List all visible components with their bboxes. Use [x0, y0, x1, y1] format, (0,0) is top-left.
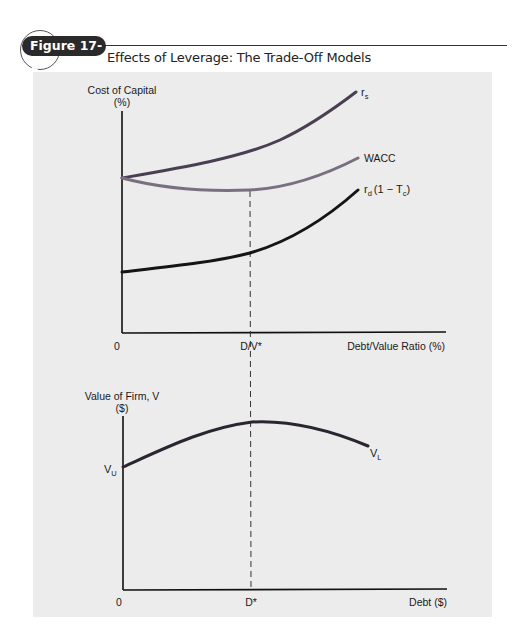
y-axis-unit: (%) [114, 96, 130, 108]
x-tick-optimum: D/V* [240, 340, 262, 352]
x-axis [123, 589, 447, 590]
vl-label: VL [370, 447, 382, 462]
x-tick-zero: 0 [116, 596, 122, 608]
rd-after-tax-curve [122, 190, 358, 272]
x-tick-zero: 0 [114, 340, 120, 352]
vu-label: VU [104, 463, 117, 478]
wacc-curve [122, 158, 358, 191]
charts-svg: Cost of Capital (%) rs WACC rd(1 − Tc) 0… [0, 0, 520, 644]
vl-curve [123, 422, 368, 467]
optimum-dashed-line [250, 191, 251, 588]
y-axis-title: Value of Firm, V [85, 390, 160, 402]
x-axis-title: Debt/Value Ratio (%) [347, 340, 445, 352]
value-of-firm-chart: Value of Firm, V ($) VL VU 0 D* Debt ($) [85, 390, 447, 608]
wacc-label: WACC [364, 152, 396, 164]
x-tick-optimum: D* [245, 596, 257, 608]
x-axis [122, 332, 446, 333]
rs-label: rs [361, 86, 369, 101]
cost-of-capital-chart: Cost of Capital (%) rs WACC rd(1 − Tc) 0… [88, 84, 446, 588]
rd-label: rd(1 − Tc) [364, 183, 410, 198]
y-axis-unit: ($) [116, 402, 129, 414]
x-axis-title: Debt ($) [409, 596, 447, 608]
rs-curve [122, 92, 356, 178]
y-axis-title: Cost of Capital [88, 84, 157, 96]
